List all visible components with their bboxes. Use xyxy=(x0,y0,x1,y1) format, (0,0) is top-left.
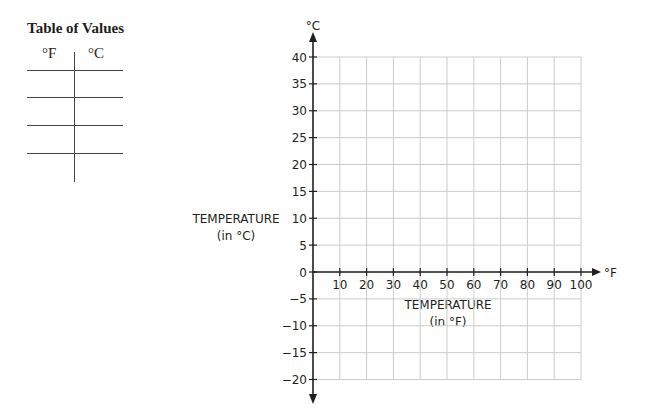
x-tick-label: 90 xyxy=(547,278,562,292)
y-axis-down-arrow-icon xyxy=(309,394,317,404)
x-unit-label: °F xyxy=(604,266,617,280)
x-tick-label: 60 xyxy=(466,278,481,292)
y-axis-up-arrow-icon xyxy=(309,32,317,42)
x-tick-label: 30 xyxy=(386,278,401,292)
y-tick-label: 25 xyxy=(292,131,307,145)
y-tick-label: 15 xyxy=(292,185,307,199)
y-tick-label: 5 xyxy=(299,239,307,253)
y-tick-label: 20 xyxy=(292,158,307,172)
x-tick-label: 40 xyxy=(413,278,428,292)
x-tick-label: 100 xyxy=(570,278,593,292)
y-tick-label: −20 xyxy=(282,373,307,387)
x-tick-label: 80 xyxy=(520,278,535,292)
y-tick-label: 30 xyxy=(292,104,307,118)
y-tick-label: −15 xyxy=(282,346,307,360)
x-tick-label: 50 xyxy=(439,278,454,292)
y-tick-label: −5 xyxy=(289,292,307,306)
x-axis-right-arrow-icon xyxy=(592,268,601,276)
x-tick-label: 10 xyxy=(332,278,347,292)
y-tick-label: 35 xyxy=(292,77,307,91)
y-tick-label: −10 xyxy=(282,319,307,333)
x-tick-label: 20 xyxy=(359,278,374,292)
y-unit-label: °C xyxy=(306,19,320,33)
y-tick-label: 10 xyxy=(292,212,307,226)
x-tick-label: 70 xyxy=(493,278,508,292)
coordinate-grid: 4035302520151050−5−10−15−201020304050607… xyxy=(0,0,646,413)
y-tick-label: 40 xyxy=(292,51,307,65)
y-tick-label: 0 xyxy=(299,266,307,280)
